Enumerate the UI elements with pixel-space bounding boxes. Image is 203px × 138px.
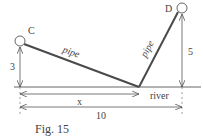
diagram-svg: C D pipe pipe 3 5 x 10 river Fig. 15 [0,0,203,138]
pipe-left [24,44,139,87]
figure-15-diagram: C D pipe pipe 3 5 x 10 river Fig. 15 [0,0,203,138]
point-c-label: C [28,25,35,36]
pipe-left-label: pipe [60,43,81,60]
river-label: river [150,90,170,101]
point-d-circle [177,3,187,13]
figure-caption: Fig. 15 [35,122,69,136]
distance-x-label: x [77,96,82,107]
point-d-label: D [165,3,172,14]
height-c-label: 3 [10,61,15,72]
height-d-label: 5 [188,46,193,57]
pipe-right-label: pipe [138,38,157,60]
point-c-circle [15,36,25,46]
distance-total-label: 10 [96,110,106,121]
